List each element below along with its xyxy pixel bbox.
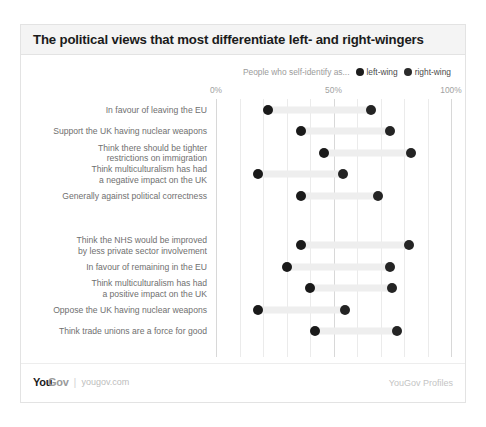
chart-row: Think multiculturalism has had a positiv…: [21, 278, 465, 300]
chart-card: The political views that most differenti…: [20, 24, 466, 403]
chart-row: Generally against political correctness: [21, 185, 465, 207]
brand-separator: |: [74, 376, 77, 388]
chart-row: Oppose the UK having nuclear weapons: [21, 299, 465, 321]
row-connector-track: [324, 149, 411, 156]
data-point-left-wing: [253, 169, 263, 179]
row-connector-track: [258, 171, 343, 178]
row-label: Think multiculturalism has had a positiv…: [21, 278, 207, 299]
footer-right-label: YouGov Profiles: [389, 378, 453, 388]
row-connector-track: [301, 128, 390, 135]
data-point-left-wing: [296, 240, 306, 250]
row-label: Think the NHS would be improved by less …: [21, 235, 207, 256]
legend-item-left-wing: left-wing: [356, 67, 398, 77]
x-axis-tick-label: 50%: [325, 85, 342, 95]
chart-row: In favour of leaving the EU: [21, 99, 465, 121]
filled-circle-icon: [356, 68, 364, 76]
data-point-right-wing: [392, 326, 402, 336]
chart-canvas: The political views that most differenti…: [0, 0, 486, 427]
row-connector-track: [301, 242, 409, 249]
data-point-left-wing: [310, 326, 320, 336]
data-point-left-wing: [263, 105, 273, 115]
chart-row: Think the NHS would be improved by less …: [21, 235, 465, 257]
chart-row: Think there should be tighter restrictio…: [21, 142, 465, 164]
plot-area: 0%50%100% In favour of leaving the EUSup…: [21, 85, 465, 365]
row-connector-track: [315, 328, 397, 335]
group-separator: [21, 207, 465, 235]
chart-row: Think trade unions are a force for good: [21, 321, 465, 343]
row-label: Think multiculturalism has had a negativ…: [21, 164, 207, 185]
row-label: Oppose the UK having nuclear weapons: [21, 305, 207, 316]
brand-url: yougov.com: [81, 377, 129, 387]
data-point-right-wing: [338, 169, 348, 179]
row-label: Support the UK having nuclear weapons: [21, 126, 207, 137]
data-point-right-wing: [406, 148, 416, 158]
row-connector-track: [258, 306, 345, 313]
x-axis-tick-labels: 0%50%100%: [21, 85, 465, 99]
x-axis-tick-label: 100%: [440, 85, 461, 95]
legend-label-right-wing: right-wing: [415, 67, 451, 77]
data-point-left-wing: [296, 126, 306, 136]
brand-primary: YouGov: [33, 376, 69, 388]
data-point-right-wing: [387, 283, 397, 293]
x-axis-tick-label: 0%: [210, 85, 222, 95]
chart-row: Support the UK having nuclear weapons: [21, 121, 465, 143]
row-label: Generally against political correctness: [21, 191, 207, 202]
data-point-right-wing: [373, 191, 383, 201]
data-point-left-wing: [282, 262, 292, 272]
data-point-right-wing: [404, 240, 414, 250]
data-point-left-wing: [253, 305, 263, 315]
chart-rows: In favour of leaving the EUSupport the U…: [21, 99, 465, 342]
data-point-right-wing: [366, 105, 376, 115]
row-label: In favour of leaving the EU: [21, 105, 207, 116]
row-label: Think there should be tighter restrictio…: [21, 142, 207, 163]
legend-item-right-wing: right-wing: [404, 67, 451, 77]
chart-row: Think multiculturalism has had a negativ…: [21, 164, 465, 186]
data-point-left-wing: [305, 283, 315, 293]
data-point-right-wing: [340, 305, 350, 315]
filled-circle-icon: [404, 68, 412, 76]
data-point-right-wing: [385, 262, 395, 272]
chart-row: In favour of remaining in the EU: [21, 256, 465, 278]
row-label: Think trade unions are a force for good: [21, 326, 207, 337]
legend-prefix: People who self-identify as...: [243, 67, 350, 77]
row-connector-track: [287, 263, 390, 270]
yougov-logo: YouGov | yougov.com: [33, 376, 129, 388]
chart-legend: People who self-identify as... left-wing…: [243, 67, 451, 77]
data-point-left-wing: [296, 191, 306, 201]
page-title: The political views that most differenti…: [33, 32, 424, 47]
row-label: In favour of remaining in the EU: [21, 262, 207, 273]
row-connector-track: [310, 285, 392, 292]
title-band: The political views that most differenti…: [21, 25, 465, 55]
row-connector-track: [301, 192, 379, 199]
legend-label-left-wing: left-wing: [367, 67, 398, 77]
row-connector-track: [268, 106, 371, 113]
chart-footer: YouGov | yougov.com YouGov Profiles: [21, 363, 465, 402]
data-point-right-wing: [385, 126, 395, 136]
data-point-left-wing: [319, 148, 329, 158]
